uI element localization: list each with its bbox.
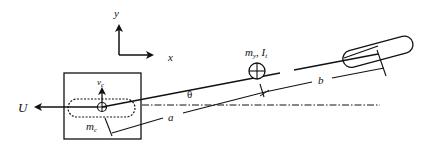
x-axis-label: x: [168, 52, 173, 63]
diagram-drawing: [0, 0, 432, 150]
coordinate-axes: [119, 26, 152, 55]
dimension-b-label: b: [318, 75, 324, 86]
y-axis-label: y: [114, 8, 119, 19]
force-label: U: [18, 101, 27, 114]
link-mass-inertia-label: my, It: [245, 47, 267, 60]
dimension-a-label: a: [168, 112, 174, 123]
angle-label: θ: [187, 89, 192, 100]
diagram-canvas: y x U vc mc my, It θ a b: [0, 0, 432, 150]
velocity-label: vc: [97, 78, 104, 89]
cart-mass-label: mc: [86, 121, 97, 134]
link-mass-marker: [249, 63, 265, 79]
